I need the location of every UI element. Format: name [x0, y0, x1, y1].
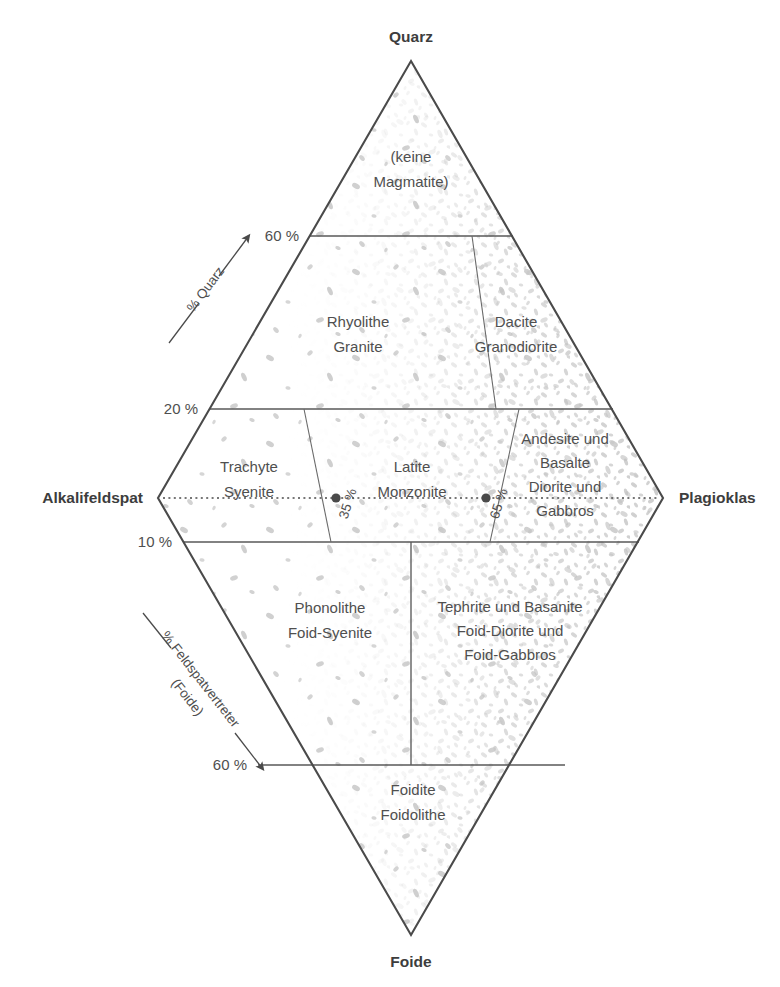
field-label-line: Rhyolithe: [327, 313, 390, 330]
vertex-label-plagioklas: Plagioklas: [679, 489, 756, 506]
tick-label-foide-10: 10 %: [138, 533, 172, 550]
node-dot-35: [331, 493, 340, 502]
field-label-line: Tephrite und Basanite: [437, 598, 582, 615]
vertex-label-alkalifeldspat: Alkalifeldspat: [42, 489, 143, 506]
field-label-line: Latite: [394, 458, 431, 475]
field-label-line: Andesite und: [521, 430, 609, 447]
field-label-line: Foid-Gabbros: [464, 646, 556, 663]
field-label-line: Foid-Diorite und: [457, 622, 564, 639]
quarz-axis-label: % Quarz: [184, 264, 228, 315]
field-label-line: Phonolithe: [295, 599, 366, 616]
field-label-line: Foid-Syenite: [288, 624, 372, 641]
field-label-line: Granodiorite: [475, 338, 558, 355]
qapf-svg-canvas: Quarz Alkalifeldspat Plagioklas Foide 60…: [0, 0, 780, 987]
field-label-line: Granite: [333, 338, 382, 355]
quarz-axis-annotation: % Quarz: [169, 237, 248, 343]
tick-label-quarz-60: 60 %: [265, 227, 299, 244]
field-label-line: Gabbros: [536, 502, 594, 519]
field-label-line: Foidite: [390, 781, 435, 798]
field-label-line: Trachyte: [220, 458, 278, 475]
field-label-line: Diorite und: [529, 478, 602, 495]
field-label-line: Dacite: [495, 313, 538, 330]
foide-axis-label-line1: % Feldspatvertreter: [158, 628, 243, 730]
field-label-line: Magmatite): [373, 173, 448, 190]
field-label-line: (keine: [391, 148, 432, 165]
field-label-line: Monzonite: [377, 483, 446, 500]
vertex-label-quarz: Quarz: [389, 28, 433, 45]
tick-label-quarz-20: 20 %: [164, 400, 198, 417]
field-label-line: Foidolithe: [380, 806, 445, 823]
tick-label-foide-60: 60 %: [213, 756, 247, 773]
field-label-line: Syenite: [224, 483, 274, 500]
vertex-label-foide: Foide: [390, 953, 432, 970]
node-dot-65: [481, 493, 490, 502]
qapf-diagram: Quarz Alkalifeldspat Plagioklas Foide 60…: [0, 0, 780, 987]
field-label-line: Basalte: [540, 454, 590, 471]
